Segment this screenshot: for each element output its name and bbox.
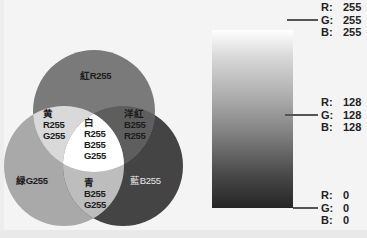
label-blue: 藍B255 xyxy=(130,175,161,186)
g-value: 0 xyxy=(343,202,349,215)
bottom-strip xyxy=(0,230,367,238)
b-value: 0 xyxy=(343,214,349,227)
b-key: B: xyxy=(321,214,343,227)
label-yellow: 黄 R255 G255 xyxy=(43,108,65,141)
g-key: G: xyxy=(321,109,343,122)
g-value: 128 xyxy=(343,109,361,122)
b-value: 128 xyxy=(343,121,361,134)
g-value: 255 xyxy=(343,14,361,27)
r-key: R: xyxy=(321,96,343,109)
marker-line-middle xyxy=(285,114,318,116)
g-key: G: xyxy=(321,14,343,27)
r-key: R: xyxy=(321,1,343,14)
b-key: B: xyxy=(321,26,343,39)
label-red: 紅R255 xyxy=(80,70,111,81)
r-key: R: xyxy=(321,189,343,202)
marker-line-bottom xyxy=(293,207,318,209)
b-value: 255 xyxy=(343,26,361,39)
r-value: 128 xyxy=(343,96,361,109)
diagram-canvas: 紅R255 黄 R255 G255 洋紅 B255 R255 白 R255 B2… xyxy=(0,0,367,238)
label-white: 白 R255 B255 G255 xyxy=(84,117,106,161)
r-value: 255 xyxy=(343,1,361,14)
rgb-values-middle: R:128 G:128 B:128 xyxy=(321,96,361,134)
b-key: B: xyxy=(321,121,343,134)
rgb-values-bottom: R:0 G:0 B:0 xyxy=(321,189,349,227)
label-green: 緑G255 xyxy=(16,175,48,186)
grayscale-gradient-bar xyxy=(212,30,293,208)
rgb-values-top: R:255 G:255 B:255 xyxy=(321,1,361,39)
label-cyan: 青 B255 G255 xyxy=(84,177,106,210)
g-key: G: xyxy=(321,202,343,215)
r-value: 0 xyxy=(343,189,349,202)
label-magenta: 洋紅 B255 R255 xyxy=(124,108,146,141)
marker-line-top xyxy=(287,19,318,21)
